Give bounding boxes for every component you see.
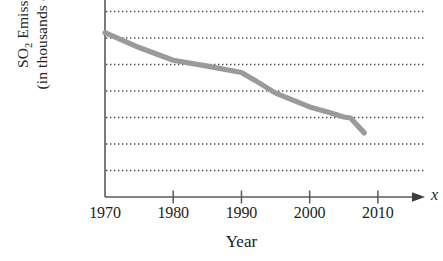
x-axis-title: Year (226, 232, 257, 252)
x-tick-label-1990: 1990 (226, 204, 258, 222)
x-tick-label-1970: 1970 (89, 204, 121, 222)
x-tick-label-2000: 2000 (294, 204, 326, 222)
x-axis-arrow-head (412, 192, 425, 202)
axes-group (105, 0, 425, 202)
x-axis-variable-label: x (431, 186, 438, 204)
gridlines-group (106, 12, 425, 171)
x-tick-label-1980: 1980 (157, 204, 189, 222)
x-tick-label-2010: 2010 (362, 204, 394, 222)
y-tick-labels-group: 010,00020,00030,000 (0, 0, 100, 261)
so2-emissions-line-chart: SO2 Emissions (in thousands of tons) 010… (0, 0, 443, 261)
